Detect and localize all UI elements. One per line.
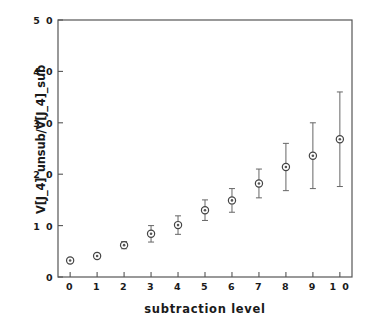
x-tick-label: 5 [201,281,209,292]
x-tick-label: 4 [174,281,182,292]
x-tick-label: 6 [228,281,236,292]
x-axis-label: subtraction level [58,302,352,316]
y-tick-label: 0 [46,272,54,283]
x-tick-label: 7 [255,281,263,292]
data-point [282,143,289,190]
data-point [201,200,208,221]
data-point [309,123,316,189]
data-point [336,92,343,187]
data-point [228,189,235,213]
x-tick-label: 9 [309,281,317,292]
data-point [120,242,127,249]
y-tick-label: 2 0 [33,169,54,180]
plot-area [0,0,369,327]
y-tick-label: 3 0 [33,117,54,128]
data-point [67,257,74,264]
x-tick-label: 3 [147,281,155,292]
y-tick-label: 1 0 [33,220,54,231]
y-tick-label: 4 0 [33,66,54,77]
data-point [174,216,181,235]
chart-figure: V[J_4]_unsub/V[J_4]_sub subtraction leve… [0,0,369,327]
x-tick-label: 1 [93,281,101,292]
data-point [94,252,101,259]
x-tick-label: 1 0 [329,281,350,292]
data-point [147,226,154,242]
data-point [255,169,262,198]
x-tick-label: 2 [120,281,128,292]
axes-frame [58,20,352,277]
x-tick-label: 8 [282,281,290,292]
y-tick-label: 5 0 [33,15,54,26]
x-tick-label: 0 [66,281,74,292]
data-series [67,92,344,264]
axis-ticks [58,20,340,277]
